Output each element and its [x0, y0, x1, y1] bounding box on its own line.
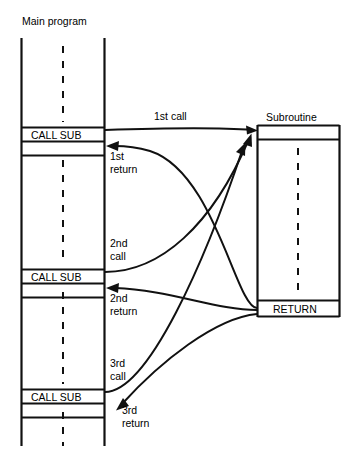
call-3-label-line1: 3rd	[110, 357, 125, 369]
call-arrow-1-head	[246, 126, 258, 135]
call-sub-3-label: CALL SUB	[31, 391, 81, 403]
return-3-label-line1: 3rd	[122, 404, 137, 416]
call-arrow-1	[105, 128, 252, 130]
subroutine-call-diagram: CALL SUB CALL SUB CALL SUB	[0, 0, 356, 469]
return-3-label-line2: return	[122, 417, 150, 429]
main-program-column: CALL SUB CALL SUB CALL SUB	[22, 38, 105, 446]
subroutine-heading: Subroutine	[266, 111, 317, 123]
return-2-label-line1: 2nd	[110, 292, 128, 304]
subroutine-column: RETURN	[258, 125, 340, 317]
call-1-label: 1st call	[154, 110, 187, 122]
return-1-label-line1: 1st	[110, 150, 124, 162]
return-block: RETURN	[258, 301, 340, 317]
call-sub-1-label: CALL SUB	[31, 129, 81, 141]
call-arrow-3-head	[236, 143, 246, 157]
call-2-label-line1: 2nd	[110, 237, 128, 249]
return-arrows	[106, 141, 257, 411]
call-sub-block-1: CALL SUB	[22, 128, 105, 156]
return-box-label: RETURN	[273, 303, 317, 315]
diagram-page: CALL SUB CALL SUB CALL SUB	[0, 0, 356, 469]
call-sub-2-label: CALL SUB	[31, 271, 81, 283]
call-3-label-line2: call	[110, 370, 126, 382]
return-arrow-3	[122, 314, 257, 404]
call-2-label-line2: call	[110, 250, 126, 262]
return-2-label-line2: return	[110, 305, 138, 317]
main-program-heading: Main program	[22, 15, 87, 27]
call-arrow-2	[105, 139, 249, 272]
return-1-label-line2: return	[110, 163, 138, 175]
